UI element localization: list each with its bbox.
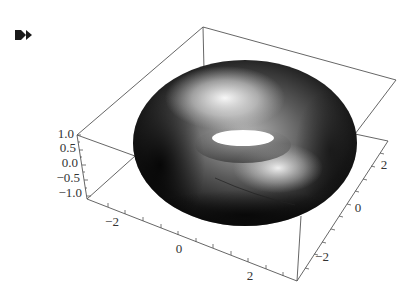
x-tick-label: 0 [176,241,183,256]
torus-3d-plot: 1.0 0.5 0.0 −0.5 −1.0 −2 0 2 −2 0 2 [0,0,404,289]
y-tick-label: −2 [315,249,329,264]
z-axis-labels: 1.0 0.5 0.0 −0.5 −1.0 [56,126,82,200]
x-tick-label: −2 [105,214,119,229]
x-tick-label: 2 [247,268,254,283]
z-tick-label: 1.0 [58,126,74,141]
y-tick-label: 0 [355,200,362,215]
torus-hole [212,130,274,146]
z-tick-label: −1.0 [58,185,82,200]
torus-surface [115,60,365,240]
z-tick-label: 0.0 [62,155,78,170]
z-tick-label: 0.5 [60,140,76,155]
z-tick-label: −0.5 [56,170,80,185]
y-tick-label: 2 [381,157,388,172]
